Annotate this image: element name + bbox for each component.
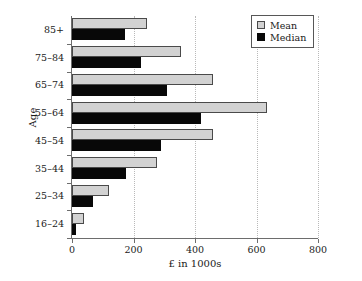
x-tick-label: 600 [237, 244, 277, 255]
x-tick [134, 239, 135, 243]
y-tick-label: 75–84 [4, 52, 64, 63]
x-tick-label: 400 [175, 244, 215, 255]
bar-mean [72, 185, 109, 196]
gridline [257, 16, 258, 238]
x-tick [72, 239, 73, 243]
bar-mean [72, 18, 147, 29]
x-tick-label: 800 [298, 244, 338, 255]
bar-mean [72, 213, 84, 224]
y-tick [67, 44, 72, 45]
x-tick-label: 0 [52, 244, 92, 255]
legend-label-median: Median [270, 32, 306, 43]
y-tick-label: 45–54 [4, 135, 64, 146]
legend-swatch-median-icon [257, 33, 265, 41]
bar-median [72, 57, 141, 68]
x-tick [318, 239, 319, 243]
bar-mean [72, 129, 213, 140]
bar-chart: Age £ in 1000s 0200400600800 16–2425–343… [0, 0, 362, 281]
plot-area [72, 16, 318, 238]
y-tick-label: 25–34 [4, 190, 64, 201]
bar-median [72, 85, 167, 96]
y-tick [67, 238, 72, 239]
y-tick [67, 127, 72, 128]
bar-median [72, 113, 201, 124]
bar-median [72, 29, 125, 40]
x-tick-label: 200 [114, 244, 154, 255]
bar-mean [72, 46, 181, 57]
bar-median [72, 168, 126, 179]
y-tick [67, 155, 72, 156]
gridline [318, 16, 319, 238]
legend-item-mean: Mean [257, 19, 306, 31]
legend-item-median: Median [257, 31, 306, 43]
bar-median [72, 224, 76, 235]
y-tick [67, 72, 72, 73]
gridline [195, 16, 196, 238]
x-axis-title: £ in 1000s [72, 258, 318, 269]
y-tick-label: 65–74 [4, 79, 64, 90]
y-tick [67, 99, 72, 100]
y-tick-label: 35–44 [4, 163, 64, 174]
chart-legend: Mean Median [251, 15, 314, 48]
x-tick [195, 239, 196, 243]
bar-median [72, 196, 93, 207]
y-tick [67, 183, 72, 184]
legend-swatch-mean-icon [257, 21, 265, 29]
y-tick [67, 210, 72, 211]
bar-median [72, 140, 161, 151]
y-tick-label: 55–64 [4, 107, 64, 118]
y-tick-label: 85+ [4, 24, 64, 35]
bar-mean [72, 74, 213, 85]
y-tick-label: 16–24 [4, 218, 64, 229]
x-tick [257, 239, 258, 243]
legend-label-mean: Mean [270, 20, 297, 31]
bar-mean [72, 157, 157, 168]
bar-mean [72, 102, 267, 113]
